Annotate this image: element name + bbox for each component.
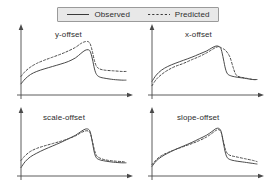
x-axis-arrow — [127, 93, 133, 98]
y-axis-arrow — [150, 107, 155, 113]
panel-y-offset — [17, 24, 133, 99]
panel-scale-offset — [17, 107, 133, 180]
plot-surface — [0, 0, 276, 194]
y-axis-arrow — [19, 24, 24, 30]
series-observed-y-offset — [21, 50, 126, 84]
series-predicted-scale-offset — [21, 131, 126, 162]
panel-x-offset — [148, 24, 264, 99]
series-predicted-slope-offset — [152, 130, 257, 165]
series-observed-slope-offset — [152, 128, 257, 166]
panel-slope-offset — [148, 107, 264, 180]
x-axis-arrow — [127, 174, 133, 179]
series-observed-x-offset — [152, 46, 257, 81]
y-axis-arrow — [19, 107, 24, 113]
x-axis-arrow — [258, 93, 264, 98]
y-axis-arrow — [150, 24, 155, 30]
x-axis-arrow — [258, 174, 264, 179]
figure-container: Observed Predicted y-offset x-offset sca… — [0, 0, 276, 194]
